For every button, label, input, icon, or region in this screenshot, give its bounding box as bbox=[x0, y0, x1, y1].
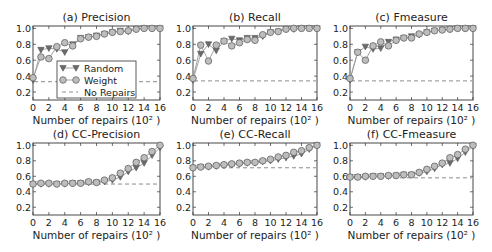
circle-marker-icon bbox=[290, 25, 297, 32]
x-tick-label: 4 bbox=[62, 217, 68, 228]
y-tick-label: 1.0 bbox=[176, 140, 191, 151]
circle-marker-icon bbox=[267, 156, 274, 163]
circle-marker-icon bbox=[298, 25, 305, 32]
circle-marker-icon bbox=[228, 161, 235, 168]
x-tick-label: 8 bbox=[93, 102, 99, 113]
circle-marker-icon bbox=[46, 180, 53, 187]
circle-marker-icon bbox=[454, 151, 461, 158]
x-tick-label: 2 bbox=[46, 217, 52, 228]
x-tick-label: 6 bbox=[78, 102, 84, 113]
circle-marker-icon bbox=[377, 39, 384, 46]
x-tick-label: 8 bbox=[408, 102, 414, 113]
y-tick-label: 0.6 bbox=[176, 55, 191, 66]
circle-marker-icon bbox=[149, 148, 156, 155]
chart-title: (d) CC-Precision bbox=[53, 128, 141, 141]
circle-marker-icon bbox=[283, 26, 290, 33]
circle-marker-icon bbox=[244, 159, 251, 166]
x-axis-label: Number of repairs (10² ) bbox=[348, 114, 476, 126]
y-tick-label: 0.8 bbox=[16, 39, 31, 50]
circle-marker-icon bbox=[401, 35, 408, 42]
circle-marker-icon bbox=[117, 28, 124, 35]
x-tick-label: 14 bbox=[295, 217, 307, 228]
y-tick-label: 0.8 bbox=[176, 39, 191, 50]
x-tick-label: 16 bbox=[467, 217, 479, 228]
y-tick-label: 0.4 bbox=[16, 186, 31, 197]
chart-panel-f: (f) CC-Fmeasure0.20.40.60.81.00246810121… bbox=[333, 128, 479, 241]
chart-title: (a) Precision bbox=[63, 11, 131, 24]
circle-marker-icon bbox=[69, 180, 76, 187]
x-tick-label: 12 bbox=[122, 217, 134, 228]
circle-marker-icon bbox=[236, 39, 243, 46]
y-tick-label: 0.4 bbox=[176, 71, 191, 82]
circle-marker-icon bbox=[85, 178, 92, 185]
x-axis-label: Number of repairs (10² ) bbox=[33, 229, 161, 241]
circle-marker-icon bbox=[470, 142, 477, 149]
circle-marker-icon bbox=[141, 25, 148, 32]
chart-panel-a: (a) Precision0.20.40.60.81.0024681012141… bbox=[16, 11, 166, 126]
circle-marker-icon bbox=[424, 166, 431, 173]
circle-marker-icon bbox=[283, 152, 290, 159]
circle-marker-icon bbox=[205, 58, 212, 65]
circle-marker-icon bbox=[117, 170, 124, 177]
circle-marker-icon bbox=[244, 36, 251, 43]
circle-marker-icon bbox=[259, 31, 266, 38]
y-tick-label: 0.8 bbox=[333, 155, 348, 166]
circle-marker-icon bbox=[431, 27, 438, 34]
circle-marker-icon bbox=[393, 37, 400, 44]
x-tick-label: 2 bbox=[362, 102, 368, 113]
circle-marker-icon bbox=[73, 77, 80, 84]
x-tick-label: 16 bbox=[467, 102, 479, 113]
chart-grid: (a) Precision0.20.40.60.81.0024681012141… bbox=[0, 0, 492, 252]
circle-marker-icon bbox=[54, 43, 61, 50]
circle-marker-icon bbox=[38, 180, 45, 187]
x-tick-label: 8 bbox=[252, 102, 258, 113]
circle-marker-icon bbox=[314, 142, 321, 149]
y-tick-label: 0.2 bbox=[176, 87, 191, 98]
x-tick-label: 12 bbox=[280, 217, 292, 228]
x-tick-label: 14 bbox=[138, 102, 150, 113]
chart-title: (f) CC-Fmeasure bbox=[367, 128, 457, 141]
x-tick-label: 4 bbox=[62, 102, 68, 113]
circle-marker-icon bbox=[416, 31, 423, 38]
y-tick-label: 0.6 bbox=[16, 171, 31, 182]
circle-marker-icon bbox=[377, 173, 384, 180]
x-axis-label: Number of repairs (10² ) bbox=[348, 229, 476, 241]
y-tick-label: 0.6 bbox=[333, 171, 348, 182]
x-tick-label: 2 bbox=[362, 217, 368, 228]
circle-marker-icon bbox=[354, 174, 361, 181]
figure: (a) Precision0.20.40.60.81.0024681012141… bbox=[0, 0, 492, 252]
circle-marker-icon bbox=[236, 160, 243, 167]
circle-marker-icon bbox=[259, 158, 266, 165]
y-tick-label: 0.4 bbox=[333, 186, 348, 197]
legend-baseline-label: No Repairs bbox=[84, 87, 135, 98]
circle-marker-icon bbox=[462, 25, 469, 32]
circle-marker-icon bbox=[393, 172, 400, 179]
circle-marker-icon bbox=[370, 173, 377, 180]
x-tick-label: 12 bbox=[280, 102, 292, 113]
circle-marker-icon bbox=[157, 25, 164, 32]
y-tick-label: 1.0 bbox=[333, 140, 348, 151]
x-tick-label: 6 bbox=[393, 217, 399, 228]
circle-marker-icon bbox=[306, 25, 313, 32]
circle-marker-icon bbox=[462, 146, 469, 153]
circle-marker-icon bbox=[439, 160, 446, 167]
x-tick-label: 0 bbox=[30, 217, 36, 228]
y-tick-label: 0.2 bbox=[16, 87, 31, 98]
x-tick-label: 10 bbox=[421, 217, 433, 228]
x-tick-label: 8 bbox=[93, 217, 99, 228]
x-tick-label: 16 bbox=[311, 217, 323, 228]
y-tick-label: 1.0 bbox=[333, 23, 348, 34]
circle-marker-icon bbox=[362, 57, 369, 64]
circle-marker-icon bbox=[221, 161, 228, 168]
chart-panel-d: (d) CC-Precision0.20.40.60.81.0024681012… bbox=[16, 128, 166, 241]
circle-marker-icon bbox=[109, 175, 116, 182]
y-tick-label: 0.8 bbox=[333, 39, 348, 50]
circle-marker-icon bbox=[408, 171, 415, 178]
circle-marker-icon bbox=[205, 163, 212, 170]
circle-marker-icon bbox=[190, 164, 197, 171]
chart-title: (c) Fmeasure bbox=[375, 11, 448, 24]
y-tick-label: 0.6 bbox=[176, 171, 191, 182]
x-tick-label: 10 bbox=[421, 102, 433, 113]
legend-random-label: Random bbox=[84, 63, 123, 74]
plot-frame bbox=[193, 143, 317, 215]
